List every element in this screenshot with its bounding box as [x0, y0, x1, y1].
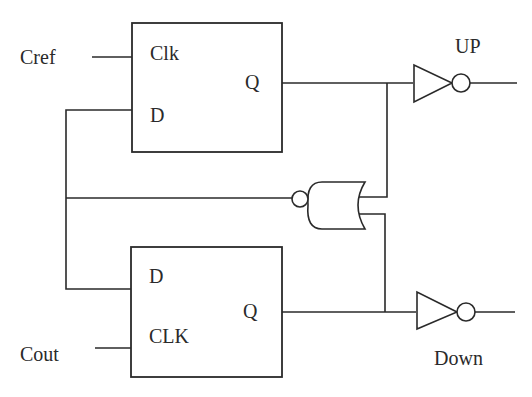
- top-q-to-gate-wire: [358, 83, 387, 197]
- up-inverter-icon: [414, 65, 470, 102]
- bottom-clk-label: CLK: [149, 325, 190, 347]
- bottom-d-label: D: [149, 265, 163, 287]
- top-d-flipflop: Clk D Q: [132, 23, 282, 152]
- circuit-diagram: Cref Cout Clk D Q D CLK Q UP Down: [0, 0, 532, 397]
- down-inverter-icon: [417, 292, 475, 329]
- top-clk-label: Clk: [150, 42, 179, 64]
- cout-input-label: Cout: [20, 343, 59, 365]
- top-d-label: D: [150, 104, 164, 126]
- top-q-label: Q: [245, 71, 260, 93]
- d-input-bus-wire: [66, 110, 132, 289]
- up-output-label: UP: [455, 35, 481, 57]
- nor-gate-icon: [292, 182, 365, 229]
- bottom-d-flipflop: D CLK Q: [131, 247, 282, 377]
- bottom-q-label: Q: [243, 300, 258, 322]
- cref-input-label: Cref: [20, 46, 56, 68]
- down-output-label: Down: [434, 347, 483, 369]
